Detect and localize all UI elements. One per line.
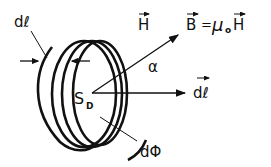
coil-loop-3 — [62, 41, 122, 147]
b-equation-label: B = μ o H — [186, 14, 245, 35]
svg-text:H: H — [233, 16, 244, 34]
svg-text:B: B — [186, 16, 196, 34]
b-field-arrow — [92, 35, 178, 93]
svg-text:dℓ: dℓ — [193, 84, 209, 102]
surface-label: S D — [74, 89, 93, 111]
svg-text:H: H — [138, 16, 149, 34]
svg-text:D: D — [86, 101, 93, 111]
dl-leader-line — [31, 31, 47, 58]
dl-vector-label: dℓ — [193, 78, 209, 102]
svg-text:=: = — [201, 17, 212, 32]
alpha-label: α — [148, 58, 158, 76]
flux-label: dΦ — [140, 143, 161, 161]
coil-flux-diagram: dℓ H B = μ o H α dℓ S D dΦ — [0, 0, 271, 167]
dl-width-label: dℓ — [14, 13, 30, 31]
h-vector-label: H — [138, 14, 149, 34]
svg-text:S: S — [74, 89, 84, 108]
svg-text:o: o — [225, 25, 231, 35]
svg-text:μ: μ — [211, 14, 223, 35]
